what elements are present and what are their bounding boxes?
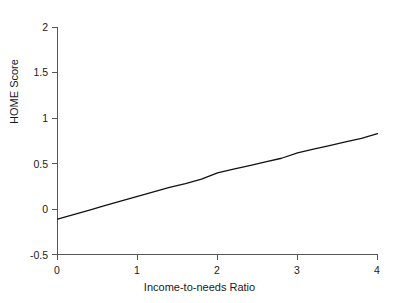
x-axis-label: Income-to-needs Ratio bbox=[0, 282, 399, 293]
y-axis-label: HOME Score bbox=[9, 42, 20, 142]
y-tick-label-0: 0 bbox=[10, 204, 48, 215]
y-tick-label-minus-0-5: -0.5 bbox=[10, 250, 48, 261]
line-chart-plot bbox=[0, 0, 399, 303]
chart-figure: 2 1.5 1 0.5 0 -0.5 0 1 2 3 4 Income-to-n… bbox=[0, 0, 399, 303]
x-tick-label-0: 0 bbox=[54, 265, 60, 276]
x-tick-label-3: 3 bbox=[294, 265, 300, 276]
data-series-line bbox=[58, 134, 378, 219]
axes-group bbox=[57, 27, 378, 255]
x-tick-label-4: 4 bbox=[374, 265, 380, 276]
y-tick-label-0-5: 0.5 bbox=[10, 159, 48, 170]
y-tick-label-2: 2 bbox=[10, 22, 48, 33]
y-tick-marks bbox=[52, 28, 57, 255]
x-tick-label-1: 1 bbox=[134, 265, 140, 276]
x-tick-label-2: 2 bbox=[214, 265, 220, 276]
